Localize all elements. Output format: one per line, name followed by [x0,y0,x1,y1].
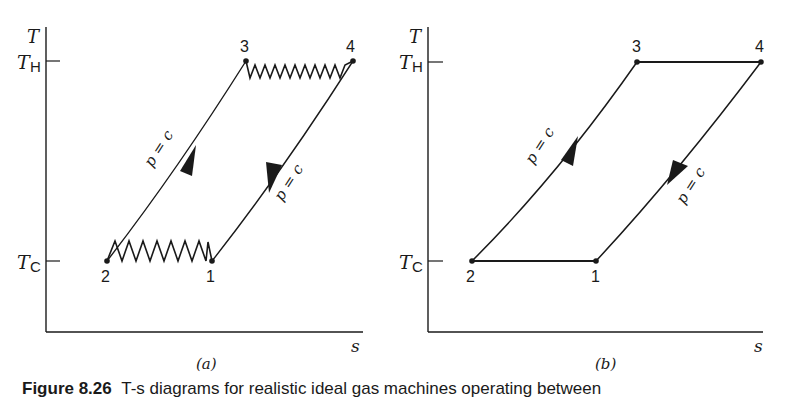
tick-label-th: T H [399,51,423,75]
y-axis-label: T [27,26,41,47]
x-axis-label: s [754,336,763,356]
arrow-up-icon [561,136,578,166]
figure-caption: Figure 8.26 T-s diagrams for realistic i… [22,379,792,399]
tick-label-tc: T C [17,251,41,275]
y-axis-label: T [409,26,423,47]
state-point-4 [350,58,356,64]
x-axis-label: s [351,336,360,356]
process-2-3-line [472,62,637,261]
state-point-4 [758,59,764,65]
panel-a: T s T H T C 1 2 3 4 p = c p [17,26,363,373]
state-label-1: 1 [206,268,215,285]
caption-text: T-s diagrams for realistic ideal gas mac… [121,379,601,398]
state-label-2: 2 [101,268,110,285]
process-4-1-line [212,61,353,261]
panel-label-b: (b) [595,355,616,373]
tick-label-th: T H [17,51,41,75]
state-point-2 [469,258,475,264]
panel-label-a: (a) [196,355,217,373]
state-point-3 [634,59,640,65]
svg-text:H: H [30,58,41,75]
state-label-1: 1 [591,268,600,285]
state-label-3: 3 [240,38,249,55]
panel-b: T s T H T C 1 2 3 4 p = c p = c (b) [399,26,764,373]
svg-text:T: T [399,51,413,73]
state-point-2 [104,258,110,264]
state-label-4: 4 [755,38,764,55]
state-label-2: 2 [466,268,475,285]
state-point-1 [209,258,215,264]
caption-label: Figure 8.26 [22,379,112,398]
svg-text:C: C [30,258,41,275]
process-4-1-line [596,62,761,261]
svg-text:T: T [399,251,413,273]
svg-text:C: C [412,258,423,275]
state-label-4: 4 [346,38,355,55]
svg-text:H: H [412,58,423,75]
zigzag-3-4 [246,61,353,78]
state-point-1 [593,258,599,264]
process-label-2-3: p = c [140,126,177,170]
process-label-2-3: p = c [521,123,558,167]
svg-text:T: T [17,51,31,73]
zigzag-2-1 [107,241,212,261]
svg-text:T: T [17,251,31,273]
state-point-3 [243,58,249,64]
state-label-3: 3 [632,38,641,55]
process-2-3-line [107,61,246,261]
tick-label-tc: T C [399,251,423,275]
